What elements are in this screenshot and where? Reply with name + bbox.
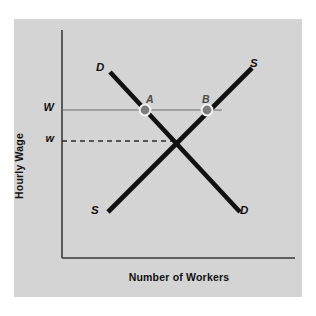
chart-figure: Hourly Wage Number of Workers W w D S S … bbox=[0, 0, 316, 316]
x-axis-title: Number of Workers bbox=[62, 271, 296, 283]
supply-curve bbox=[108, 68, 252, 212]
supply-curve-label-top: S bbox=[250, 57, 258, 69]
point-a-label: A bbox=[146, 93, 154, 105]
y-tick-label-upper-wage: W bbox=[26, 101, 54, 113]
y-tick-label-lower-wage: w bbox=[26, 132, 54, 144]
chart-plot-area bbox=[0, 0, 316, 316]
demand-curve-label-top: D bbox=[96, 61, 104, 73]
point-a-marker bbox=[140, 105, 151, 116]
y-axis-title: Hourly Wage bbox=[13, 116, 25, 216]
point-b-marker bbox=[202, 105, 213, 116]
point-b-label: B bbox=[202, 93, 210, 105]
demand-curve-label-bottom: D bbox=[240, 204, 248, 216]
supply-curve-label-bottom: S bbox=[91, 204, 99, 216]
